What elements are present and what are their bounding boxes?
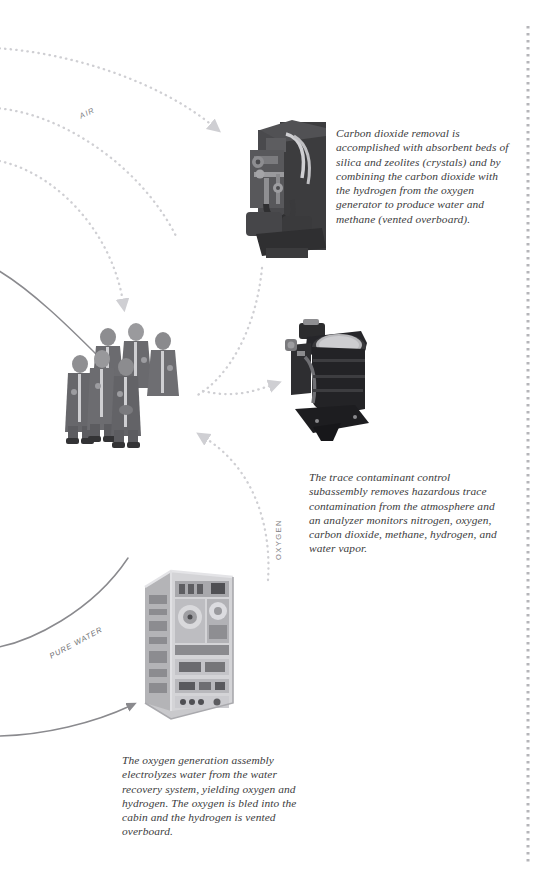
caption-trace-contaminant: The trace contaminant control subassembl… — [309, 470, 499, 556]
trace-contaminant-control-photo — [277, 317, 373, 443]
flow-air-lower — [0, 160, 123, 302]
flow-crew-to-trace — [203, 385, 272, 394]
caption-oxygen-generation: The oxygen generation assembly electroly… — [122, 753, 308, 839]
flow-air-middle — [0, 108, 176, 236]
flow-pure-water — [0, 558, 128, 648]
flow-label-pure-water: PURE WATER — [48, 625, 104, 661]
flow-air-upper — [0, 48, 213, 126]
oxygen-generation-assembly-photo — [133, 563, 243, 723]
astronaut-crew-photo — [62, 316, 189, 448]
page-edge-dotted-rule — [525, 0, 531, 872]
flow-oxygen — [205, 438, 268, 580]
caption-co2-removal: Carbon dioxide removal is accomplished w… — [336, 126, 514, 226]
diagram-page: AIR OXYGEN PURE WATER Carbon dioxide rem… — [0, 0, 537, 872]
flow-label-air: AIR — [78, 105, 96, 120]
flow-label-oxygen: OXYGEN — [274, 519, 283, 560]
co2-removal-assembly-photo — [236, 116, 339, 263]
flow-water-to-rack — [0, 706, 130, 736]
flow-co2-to-crew — [196, 268, 262, 396]
